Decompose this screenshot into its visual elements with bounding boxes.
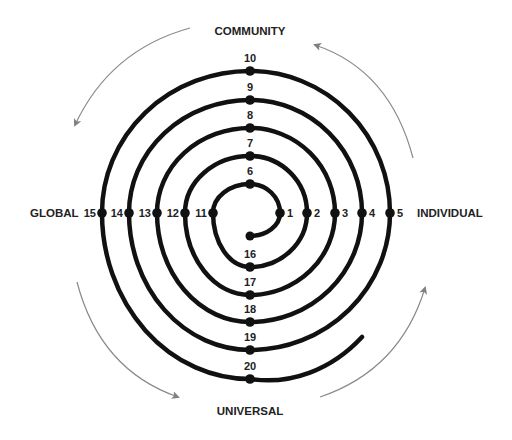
spiral-point <box>97 208 107 218</box>
point-label: 14 <box>111 207 124 219</box>
spiral-point <box>275 208 285 218</box>
spiral-point <box>385 208 395 218</box>
point-label: 11 <box>195 207 207 219</box>
point-label: 4 <box>369 207 376 219</box>
spiral-point <box>245 345 255 355</box>
point-label: 13 <box>139 207 151 219</box>
point-label: 12 <box>167 207 179 219</box>
label-global: GLOBAL <box>30 207 79 219</box>
spiral-point <box>208 208 218 218</box>
point-label: 9 <box>247 81 253 93</box>
point-label: 17 <box>244 276 256 288</box>
spiral-point <box>124 208 134 218</box>
point-label: 19 <box>244 331 256 343</box>
spiral-point <box>180 208 190 218</box>
spiral-point <box>245 95 255 105</box>
spiral-point <box>245 374 255 384</box>
point-label: 16 <box>244 248 256 260</box>
arrow-bottom-right <box>320 288 425 397</box>
label-individual: INDIVIDUAL <box>417 207 483 219</box>
point-label: 1 <box>287 207 293 219</box>
spiral-point <box>245 66 255 76</box>
spiral-point <box>357 208 367 218</box>
spiral-diagram: 1234567891011121314151617181920 COMMUNIT… <box>0 0 512 440</box>
arrow-bottom-left <box>77 282 178 397</box>
arrow-top-right <box>315 45 413 158</box>
point-label: 15 <box>84 207 96 219</box>
point-label: 10 <box>244 52 256 64</box>
arrow-top-left <box>75 28 190 125</box>
direction-labels: COMMUNITY GLOBAL INDIVIDUAL UNIVERSAL <box>30 25 483 417</box>
spiral-point <box>245 262 255 272</box>
spiral-point <box>302 208 312 218</box>
spiral-point <box>245 290 255 300</box>
spiral-point <box>152 208 162 218</box>
point-label: 5 <box>397 207 403 219</box>
label-universal: UNIVERSAL <box>217 405 283 417</box>
spiral-point <box>245 123 255 133</box>
point-label: 7 <box>247 137 253 149</box>
point-label: 3 <box>342 207 348 219</box>
spiral-point <box>330 208 340 218</box>
point-label: 20 <box>244 360 256 372</box>
point-label: 18 <box>244 303 256 315</box>
label-community: COMMUNITY <box>215 25 286 37</box>
point-label: 6 <box>247 165 253 177</box>
spiral-point <box>245 151 255 161</box>
spiral-point <box>245 179 255 189</box>
point-label: 8 <box>247 109 253 121</box>
spiral-point <box>245 317 255 327</box>
spiral-start-dot <box>246 232 255 241</box>
point-label: 2 <box>314 207 320 219</box>
